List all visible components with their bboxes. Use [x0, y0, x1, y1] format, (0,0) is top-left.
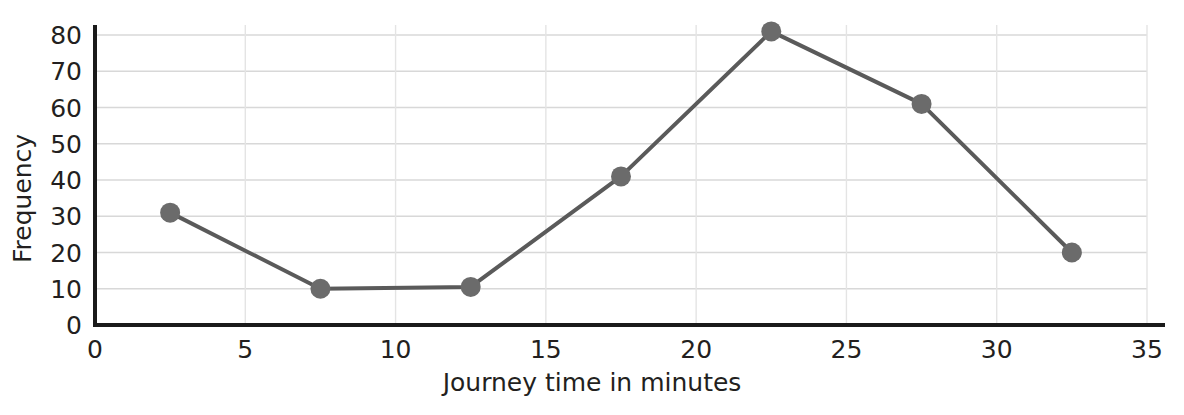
series-polyline — [170, 31, 1072, 288]
data-point-marker — [912, 94, 932, 114]
data-point-marker — [160, 203, 180, 223]
y-axis-tick-label: 80 — [16, 23, 82, 48]
data-point-marker — [611, 166, 631, 186]
y-axis-tick-label: 60 — [16, 95, 82, 120]
data-point-marker — [310, 279, 330, 299]
x-axis-title: Journey time in minutes — [0, 368, 1184, 397]
x-axis-tick-label: 30 — [981, 337, 1013, 362]
frequency-polygon-chart: 01020304050607080 05101520253035 Journey… — [0, 0, 1184, 415]
vertical-gridlines — [245, 25, 1147, 325]
y-axis-tick-label: 0 — [16, 313, 82, 338]
data-point-marker — [1062, 243, 1082, 263]
data-series-markers — [160, 21, 1082, 298]
data-point-marker — [461, 277, 481, 297]
x-axis-tick-label: 20 — [680, 337, 712, 362]
data-series-line — [170, 31, 1072, 288]
y-axis-tick-label: 70 — [16, 59, 82, 84]
horizontal-gridlines — [95, 35, 1147, 289]
x-axis-tick-label: 25 — [831, 337, 863, 362]
y-axis-title: Frequency — [8, 134, 37, 263]
x-axis-tick-label: 15 — [530, 337, 562, 362]
x-axis-tick-label: 10 — [380, 337, 412, 362]
y-axis-tick-label: 10 — [16, 276, 82, 301]
data-point-marker — [761, 21, 781, 41]
x-axis-tick-label: 5 — [237, 337, 253, 362]
x-axis-tick-label: 0 — [87, 337, 103, 362]
x-axis-tick-label: 35 — [1131, 337, 1163, 362]
